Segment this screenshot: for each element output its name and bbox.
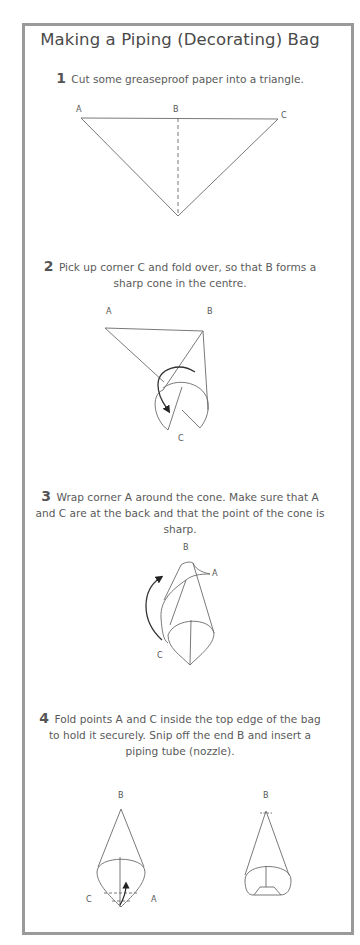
step-3-wrap-diagram xyxy=(161,562,214,665)
step-1-triangle-diagram xyxy=(81,118,278,216)
diagrams: A B C A B C B A C B C A xyxy=(0,0,360,945)
step-1-label-b: B xyxy=(173,104,179,114)
step-4-label-b: B xyxy=(118,790,124,800)
step-2-label-a: A xyxy=(106,306,112,316)
step-2-label-b: B xyxy=(207,306,213,316)
step-4-bag-with-nozzle-diagram xyxy=(245,811,291,895)
step-2-fold-diagram xyxy=(105,328,208,430)
step-4-fold-in-arrow-icon xyxy=(120,885,126,905)
step-4-label-c: C xyxy=(86,894,92,904)
step-4-folded-bag-diagram xyxy=(97,809,145,907)
step-1-label-a: A xyxy=(76,104,82,114)
step-3-label-b: B xyxy=(183,542,189,552)
step-2-label-c: C xyxy=(178,433,184,443)
step-1-label-c: C xyxy=(281,110,287,120)
step-4-label-a: A xyxy=(151,894,157,904)
step-3-label-c: C xyxy=(157,650,163,660)
step-3-wrap-arrow-icon xyxy=(146,578,162,640)
step-4-label-b-snipped: B xyxy=(263,790,269,800)
step-3-label-a: A xyxy=(212,568,218,578)
